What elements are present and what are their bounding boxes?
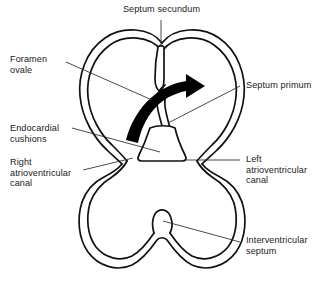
ventricle-inner-wall-right [170, 203, 236, 259]
label-left-atrioventricular-canal: Left atrioventricular canal [246, 154, 324, 186]
label-septum-primum: Septum primum [246, 80, 324, 91]
interventricular-septum-ridge [153, 210, 172, 233]
endocardial-cushion-mass [138, 126, 186, 161]
right-av-canal-outer [82, 164, 122, 202]
label-right-atrioventricular-canal: Right atrioventricular canal [10, 157, 86, 189]
left-av-canal-outer [202, 164, 242, 202]
ventricle-outer-wall [79, 202, 245, 268]
label-septum-secundum: Septum secundum [95, 4, 228, 15]
label-foramen-ovale: Foramen ovale [10, 54, 80, 75]
figure-root: Septum secundum Foramen ovale Septum pri… [0, 0, 324, 281]
label-interventricular-septum: Interventricular septum [246, 235, 324, 256]
ventricle-inner-wall [88, 203, 154, 259]
septum-secundum-flap [155, 46, 164, 92]
label-endocardial-cushions: Endocardial cushions [10, 123, 82, 144]
